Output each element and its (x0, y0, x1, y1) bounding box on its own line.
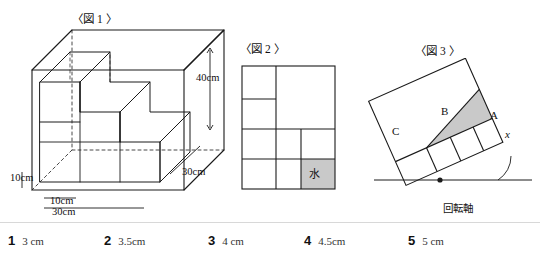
figure-3-angle-x: x (505, 128, 510, 140)
figure-3-mark-b: B (441, 105, 448, 117)
choice-3-number: 3 (208, 233, 215, 248)
choice-5-number: 5 (408, 233, 415, 248)
figure-1-dim-40cm: 40cm (196, 72, 219, 83)
worksheet-page: 〈図 1 〉 (0, 0, 540, 265)
choice-5-value: 5 cm (422, 235, 444, 247)
figure-3-axis-label: 回転軸 (443, 200, 473, 215)
choice-1[interactable]: 1 3 cm (8, 233, 44, 248)
choice-4-value: 4.5cm (318, 235, 345, 247)
choice-3[interactable]: 3 4 cm (208, 233, 244, 248)
figure-1-dim-30cm-width: 30cm (52, 206, 75, 217)
figure-1-drawing (14, 22, 234, 217)
figure-3-mark-a: A (490, 109, 498, 121)
choice-4-number: 4 (304, 233, 311, 248)
figure-3-label: 〈図 3 〉 (415, 42, 460, 58)
bottom-divider (0, 222, 540, 223)
choice-2-value: 3.5cm (118, 235, 145, 247)
figure-1-dim-30cm-depth: 30cm (182, 166, 205, 177)
choice-1-value: 3 cm (22, 235, 44, 247)
choice-3-value: 4 cm (222, 235, 244, 247)
figure-1-dim-10cm-width: 10cm (50, 195, 73, 206)
choice-2-number: 2 (104, 233, 111, 248)
choice-4[interactable]: 4 4.5cm (304, 233, 345, 248)
choice-2[interactable]: 2 3.5cm (104, 233, 145, 248)
figure-2-water-label: 水 (309, 165, 320, 181)
answer-choices: 1 3 cm 2 3.5cm 3 4 cm 4 4.5cm 5 5 cm (0, 229, 540, 259)
choice-5[interactable]: 5 5 cm (408, 233, 444, 248)
choice-1-number: 1 (8, 233, 15, 248)
figure-1-dim-10cm-height: 10cm (10, 172, 33, 183)
figure-2-drawing (236, 62, 341, 202)
figure-3-mark-c: C (392, 125, 399, 137)
figure-2-label: 〈図 2 〉 (240, 40, 285, 56)
